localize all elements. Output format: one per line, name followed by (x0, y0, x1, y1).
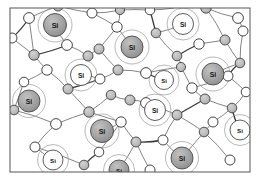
open-site-24 (225, 155, 235, 165)
silicon-atom-si-1 (44, 14, 67, 37)
silicon-atom-si-6 (202, 63, 224, 85)
open-site-11 (141, 68, 152, 79)
silicon-atom-si-5 (155, 71, 174, 90)
grey-site-13 (63, 84, 73, 94)
open-site-4 (233, 13, 244, 24)
open-site-14 (95, 74, 105, 84)
silicon-atom-si-10 (230, 120, 250, 140)
open-site-18 (51, 119, 62, 130)
grey-site-11 (176, 62, 185, 71)
amorphous-silicon-network-figure: SiSiSiSiSiSiSiSiSiSiSiSiSi (0, 0, 259, 184)
silicon-atom-si-2 (121, 36, 143, 58)
grey-site-16 (200, 94, 210, 104)
open-site-19 (116, 117, 126, 127)
grey-site-1 (53, 1, 63, 11)
open-site-13 (19, 77, 29, 87)
silicon-atom-si-4 (71, 65, 92, 86)
silicon-atom-si-3 (173, 14, 194, 35)
open-site-8 (194, 39, 204, 49)
open-site-1 (24, 13, 35, 24)
silicon-atom-si-7 (18, 90, 40, 112)
grey-site-23 (79, 160, 89, 170)
grey-site-20 (227, 103, 237, 113)
grey-site-22 (199, 127, 209, 137)
grey-site-14 (106, 90, 116, 100)
open-site-5 (7, 33, 17, 43)
grey-site-18 (84, 107, 94, 117)
open-site-12 (223, 71, 233, 81)
open-site-21 (158, 135, 168, 145)
grey-site-4 (94, 44, 104, 54)
grey-site-5 (151, 28, 161, 38)
open-site-22 (30, 142, 40, 152)
open-site-17 (241, 87, 251, 97)
grey-site-10 (113, 65, 123, 75)
grey-site-15 (125, 95, 135, 105)
grey-site-21 (131, 137, 141, 147)
figure-container: SiSiSiSiSiSiSiSiSiSiSiSiSi (0, 0, 259, 184)
silicon-atom-si-13 (109, 160, 129, 180)
silicon-atom-si-11 (43, 150, 63, 170)
open-site-10 (42, 65, 52, 75)
open-site-9 (238, 26, 248, 36)
grey-site-9 (172, 51, 182, 61)
grey-site-19 (172, 110, 182, 120)
open-site-3 (145, 5, 155, 15)
grey-site-6 (220, 35, 230, 45)
open-site-23 (94, 147, 104, 157)
open-site-2 (87, 8, 97, 18)
grey-site-12 (235, 58, 245, 68)
open-site-20 (208, 117, 218, 127)
open-site-15 (187, 83, 197, 93)
silicon-atom-si-9 (91, 120, 114, 143)
grey-site-8 (83, 51, 93, 61)
grey-site-7 (29, 50, 39, 60)
open-site-25 (145, 165, 155, 175)
silicon-atom-si-8 (145, 100, 166, 121)
grey-site-17 (9, 105, 19, 115)
open-site-6 (62, 40, 73, 51)
grey-site-2 (115, 5, 124, 14)
open-site-7 (112, 22, 122, 32)
silicon-atom-si-12 (171, 147, 193, 169)
